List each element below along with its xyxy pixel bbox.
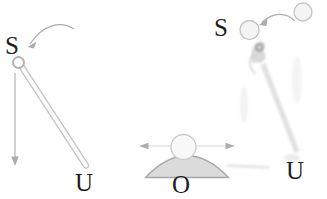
right-pivot-label: S bbox=[214, 15, 228, 40]
rotation-arrow-icon bbox=[28, 25, 75, 49]
left-pivot-label: S bbox=[5, 33, 19, 58]
ghost-smudge bbox=[227, 41, 302, 167]
ball-shape bbox=[171, 135, 196, 160]
pendulum-rod bbox=[22, 67, 87, 166]
ghost-rotation-arrow-icon bbox=[259, 14, 295, 26]
middle-base-label: O bbox=[172, 172, 190, 197]
diagram-shapes bbox=[0, 0, 327, 199]
right-ghost-diagram bbox=[227, 3, 312, 168]
right-end-label: U bbox=[286, 158, 304, 183]
left-end-label: U bbox=[75, 170, 93, 195]
figure-canvas: S U O S U bbox=[0, 0, 327, 199]
ghost-ball-left bbox=[240, 21, 259, 40]
ghost-ball-right bbox=[294, 3, 312, 21]
left-pendulum-diagram bbox=[11, 25, 86, 166]
down-arrow-icon bbox=[11, 73, 18, 166]
